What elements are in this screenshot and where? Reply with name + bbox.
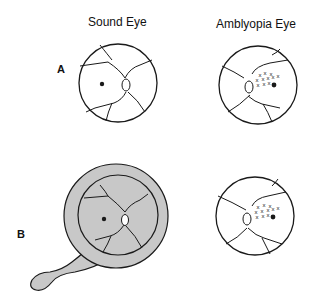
svg-text:x: x [272, 206, 275, 212]
svg-text:x: x [272, 74, 275, 80]
fovea-dot-icon [100, 82, 104, 86]
optic-disc-icon [122, 215, 129, 226]
occluder-patch [31, 164, 168, 290]
svg-text:x: x [263, 81, 266, 87]
svg-text:x: x [268, 80, 271, 86]
svg-text:x: x [277, 205, 280, 211]
fovea-dot-icon [271, 215, 276, 220]
optic-disc-icon [243, 213, 251, 225]
svg-text:x: x [256, 214, 259, 220]
diagram-canvas: xxx xxxxx xxx xxx xxxxx xxx [0, 0, 321, 299]
fovea-dot-icon [272, 83, 277, 88]
svg-text:x: x [257, 82, 260, 88]
optic-disc-icon [122, 79, 130, 91]
svg-text:x: x [262, 213, 265, 219]
svg-text:x: x [267, 212, 270, 218]
sound-eye-fundus-a [79, 44, 157, 122]
fovea-dot-icon [102, 217, 106, 221]
svg-text:x: x [277, 73, 280, 79]
optic-disc-icon [245, 81, 253, 93]
